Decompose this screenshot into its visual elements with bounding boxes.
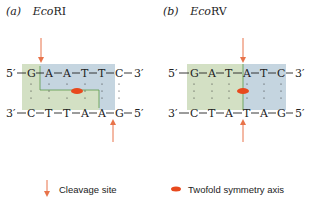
base: C: [277, 67, 285, 80]
top-strand-5-end: 5′: [6, 67, 16, 80]
base: T: [243, 107, 251, 120]
base: C: [27, 107, 35, 120]
twofold-symmetry-icon: [237, 88, 249, 94]
panel-b-enzyme-suffix: RV: [211, 5, 228, 18]
panel-b-enzyme-prefix: Eco: [189, 5, 211, 18]
base: C: [190, 107, 198, 120]
legend-cleavage-site: Cleavage site: [47, 180, 117, 195]
panel-ecori: (a) EcoRI 5′ G A A T T C 3′: [6, 5, 144, 142]
base: A: [242, 67, 252, 80]
legend-symmetry-label: Twofold symmetry axis: [188, 184, 284, 195]
panel-b-title: (b) EcoRV: [163, 5, 228, 18]
restriction-enzyme-diagram: (a) EcoRI 5′ G A A T T C 3′: [0, 0, 314, 201]
base: T: [260, 67, 268, 80]
twofold-symmetry-icon: [71, 88, 83, 94]
base: G: [190, 67, 199, 80]
top-strand-3-end: 3′: [134, 67, 144, 80]
panel-b-label: (b): [163, 5, 179, 18]
base: T: [45, 107, 53, 120]
legend: Cleavage site Twofold symmetry axis: [47, 180, 284, 195]
base: A: [207, 67, 217, 80]
base: G: [27, 67, 36, 80]
base: T: [225, 67, 233, 80]
base: A: [44, 67, 54, 80]
base: T: [98, 67, 106, 80]
base: T: [81, 67, 89, 80]
panel-a-enzyme-suffix: RI: [53, 5, 66, 18]
base: A: [259, 107, 269, 120]
top-strand-5-end: 5′: [168, 67, 178, 80]
legend-symmetry-axis: Twofold symmetry axis: [171, 184, 284, 195]
panel-a-enzyme-prefix: Eco: [32, 5, 54, 18]
base: C: [115, 67, 123, 80]
bottom-strand-5-end: 5′: [295, 107, 305, 120]
base: T: [63, 107, 71, 120]
bottom-strand-3-end: 3′: [6, 107, 16, 120]
base: A: [62, 67, 72, 80]
base: A: [80, 107, 90, 120]
panel-a-title: (a) EcoRI: [6, 5, 66, 18]
top-strand-3-end: 3′: [295, 67, 305, 80]
base: T: [208, 107, 216, 120]
panel-ecorv: (b) EcoRV 5′ G A T A T C 3′: [163, 5, 305, 142]
base: G: [115, 107, 124, 120]
base: A: [97, 107, 107, 120]
bottom-strand-5-end: 5′: [134, 107, 144, 120]
base: G: [277, 107, 286, 120]
panel-a-label: (a): [6, 5, 21, 18]
base: A: [224, 107, 234, 120]
legend-cleavage-label: Cleavage site: [59, 184, 117, 195]
bottom-strand-3-end: 3′: [168, 107, 178, 120]
twofold-symmetry-icon: [171, 187, 181, 192]
